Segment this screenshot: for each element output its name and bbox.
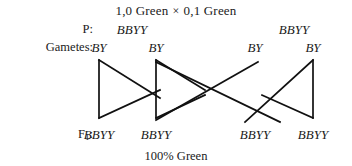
connector-cross-up-right xyxy=(156,62,258,120)
connector-cross-down-right xyxy=(156,62,280,122)
connector-l1-up xyxy=(99,90,160,118)
f1-genotype-3: BBYY xyxy=(240,128,270,141)
genetic-cross-diagram: 1,0 Green×0,1 Green P: BBYY BBYY Gametes… xyxy=(0,0,352,166)
connector-r1-up xyxy=(262,95,313,118)
f1-row-label: F1: xyxy=(0,128,93,142)
f1-genotype-2: BBYY xyxy=(141,128,171,141)
f1-genotype-4: BBYY xyxy=(298,128,328,141)
connector-l1-down xyxy=(99,60,160,98)
f1-genotype-1: BBYY xyxy=(84,128,114,141)
f1-phenotype-result: 100% Green xyxy=(0,150,352,163)
connector-l2-down xyxy=(156,60,205,90)
